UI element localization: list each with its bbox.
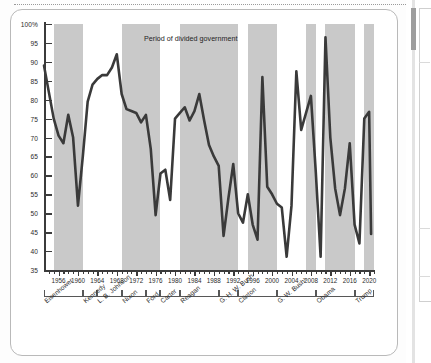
y-tick-label: 35 (11, 267, 38, 274)
panel-divider (419, 62, 430, 63)
x-tick-minor (199, 270, 200, 274)
x-tick-major (311, 270, 312, 276)
y-tick (44, 43, 52, 44)
x-tick-minor (73, 270, 74, 274)
x-tick-major (369, 270, 370, 276)
x-tick-minor (112, 270, 113, 274)
x-tick-minor (243, 270, 244, 274)
x-tick-minor (359, 270, 360, 274)
x-tick-major (214, 270, 215, 276)
x-tick-minor (83, 270, 84, 274)
x-tick-major (78, 270, 79, 276)
x-tick-label: 2020 (362, 277, 376, 284)
y-tick (44, 119, 52, 120)
x-tick-minor (224, 270, 225, 274)
x-tick-minor (93, 270, 94, 274)
x-tick-label: 2016 (343, 277, 357, 284)
x-tick-minor (63, 270, 64, 274)
x-tick-minor (355, 270, 356, 274)
x-tick-minor (68, 270, 69, 274)
line-chart: 35404550556065707580859095100% 195619601… (11, 10, 397, 355)
right-side-panel (406, 0, 430, 363)
x-tick-major (330, 270, 331, 276)
x-tick-minor (141, 270, 142, 274)
x-tick-minor (301, 270, 302, 274)
x-tick-major (59, 270, 60, 276)
x-tick-minor (151, 270, 152, 274)
chart-legend: Period of divided government (129, 34, 238, 43)
x-tick-minor (107, 270, 108, 274)
x-tick-minor (316, 270, 317, 274)
series-polyline (44, 37, 371, 257)
x-tick-minor (296, 270, 297, 274)
scrollbar-track[interactable] (412, 0, 415, 363)
adjacent-panel-edge (419, 8, 431, 302)
y-tick-label: 80 (11, 96, 38, 103)
x-tick-minor (204, 270, 205, 274)
x-tick-minor (374, 270, 375, 274)
x-tick-major (292, 270, 293, 276)
x-tick-major (156, 270, 157, 276)
y-tick-label: 100% (11, 21, 38, 28)
x-tick-major (117, 270, 118, 276)
y-tick-label: 65 (11, 153, 38, 160)
x-tick-minor (146, 270, 147, 274)
y-tick (44, 81, 52, 82)
x-tick-label: 1984 (187, 277, 201, 284)
y-tick (44, 100, 52, 101)
x-tick-minor (88, 270, 89, 274)
x-tick-minor (258, 270, 259, 274)
x-tick-minor (102, 270, 103, 274)
x-tick-minor (306, 270, 307, 274)
y-tick (44, 194, 52, 195)
x-tick-label: 1988 (207, 277, 221, 284)
y-tick (44, 24, 52, 25)
y-tick-label: 95 (11, 39, 38, 46)
legend-swatch-divided-government (129, 34, 138, 43)
scrollbar-thumb[interactable] (411, 8, 416, 50)
y-tick-label: 90 (11, 58, 38, 65)
y-tick (44, 156, 52, 157)
x-tick-minor (190, 270, 191, 274)
x-tick-minor (238, 270, 239, 274)
x-tick-minor (277, 270, 278, 274)
x-tick-minor (131, 270, 132, 274)
x-tick-major (350, 270, 351, 276)
x-tick-minor (185, 270, 186, 274)
x-tick-minor (267, 270, 268, 274)
x-tick-minor (340, 270, 341, 274)
y-tick (44, 232, 52, 233)
x-tick-minor (165, 270, 166, 274)
y-tick-label: 60 (11, 172, 38, 179)
x-tick-minor (54, 270, 55, 274)
y-tick-label: 75 (11, 115, 38, 122)
legend-label: Period of divided government (144, 34, 238, 43)
y-tick (44, 138, 52, 139)
x-tick-label: 2012 (323, 277, 337, 284)
x-tick-major (136, 270, 137, 276)
plot-area (44, 24, 374, 270)
x-tick-minor (228, 270, 229, 274)
y-tick-label: 45 (11, 229, 38, 236)
x-tick-minor (282, 270, 283, 274)
y-tick-label: 50 (11, 210, 38, 217)
x-tick-minor (325, 270, 326, 274)
x-tick-minor (287, 270, 288, 274)
y-tick-label: 55 (11, 191, 38, 198)
panel-divider (419, 228, 430, 229)
x-tick-major (272, 270, 273, 276)
x-tick-label: 2000 (265, 277, 279, 284)
x-tick-minor (122, 270, 123, 274)
y-tick (44, 175, 52, 176)
x-tick-minor (180, 270, 181, 274)
y-tick-label: 85 (11, 77, 38, 84)
x-tick-minor (321, 270, 322, 274)
x-tick-label: 1976 (149, 277, 163, 284)
series-line (44, 24, 374, 270)
chart-card: 35404550556065707580859095100% 195619601… (10, 9, 398, 356)
x-tick-minor (49, 270, 50, 274)
top-dotted-divider (14, 4, 410, 5)
x-tick-minor (335, 270, 336, 274)
x-tick-major (97, 270, 98, 276)
y-tick-label: 70 (11, 134, 38, 141)
